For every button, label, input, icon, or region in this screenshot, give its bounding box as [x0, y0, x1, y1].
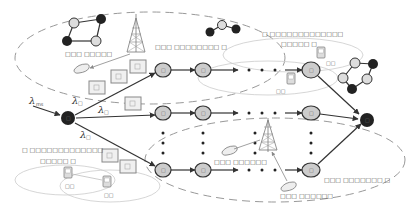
svg-text:□: □ [201, 110, 206, 116]
svg-text:□: □ [161, 167, 166, 173]
top-coverage-ellipse [15, 12, 285, 104]
bottom-phone-label-2: □□□ □□□□□□ [280, 192, 333, 199]
top-right-pda-1-tag: □□ [326, 60, 336, 66]
path-2-arrow-source [76, 115, 155, 118]
svg-text:□: □ [309, 167, 314, 173]
path-3-rate-sub: □ [86, 134, 91, 140]
network-diagram: □□□ □□□□□ □□□ □□□□□□□□ □ [0, 0, 411, 212]
left-pda-1-tag: □□ [65, 183, 75, 189]
bottom-cell-tower-icon [259, 118, 277, 152]
top-right-mini-network [338, 58, 378, 94]
source-rate-lambda: λ [28, 95, 35, 106]
source-rate-sub: ms [36, 101, 44, 107]
path-2: □ □ □ [155, 106, 358, 120]
bottom-phone-icon-1 [222, 146, 237, 155]
path-1-rate-sub: □ [78, 100, 83, 106]
bottom-coverage-ellipse [145, 118, 405, 202]
path-3: □ □ □ [155, 124, 361, 177]
top-cluster-label: □□□ □□□□□□□□ □ [155, 43, 227, 50]
bottom-right-cluster-label: □□□ □□□□□□□ □ [324, 176, 391, 183]
source-input-arrow [33, 106, 60, 115]
source-node: □ [61, 111, 75, 125]
top-phone-icon [74, 64, 89, 73]
svg-text:□: □ [161, 110, 166, 116]
svg-text:□: □ [201, 67, 206, 73]
svg-text:□: □ [66, 115, 71, 121]
top-right-pda-2-tag: □□ [276, 88, 286, 94]
top-right-pda-icon-1 [317, 47, 325, 58]
vertical-ellipsis-dots [162, 132, 313, 155]
left-cluster-label-line2: □□□□□ □ [40, 157, 76, 164]
top-right-pda-icon-2 [287, 73, 295, 84]
left-cluster-label-line1: □ □□□□□□□□□□□□□ [22, 146, 104, 153]
left-pda-icon-1 [64, 167, 72, 178]
svg-text:□: □ [161, 67, 166, 73]
path-2-rate-sub: □ [104, 109, 109, 115]
top-network-label: □□□ □□□□□ [65, 50, 113, 57]
bottom-phone-1-to-tower [234, 140, 260, 149]
svg-text:□: □ [365, 117, 370, 123]
sink-node: □ [360, 113, 374, 127]
top-left-mini-network [62, 14, 106, 46]
bottom-phone-icon-2 [281, 182, 296, 191]
svg-text:□: □ [309, 67, 314, 73]
top-right-cluster-label-line1: □ □□□□□□□□□□□□□ [262, 30, 344, 37]
bottom-phone-label-1: □□□ □□□□□□ [214, 158, 267, 165]
bottom-phone-2-to-tower [272, 152, 287, 181]
svg-text:□: □ [309, 110, 314, 116]
svg-text:□: □ [201, 167, 206, 173]
left-pda-2-tag: □□ [104, 192, 114, 198]
top-cell-tower-icon [127, 14, 145, 52]
left-pda-link [72, 174, 102, 180]
top-mini-chain [206, 21, 241, 37]
top-right-cluster-label-line2: □□□□□ □ [281, 40, 317, 47]
left-pda-icon-2 [103, 176, 111, 187]
